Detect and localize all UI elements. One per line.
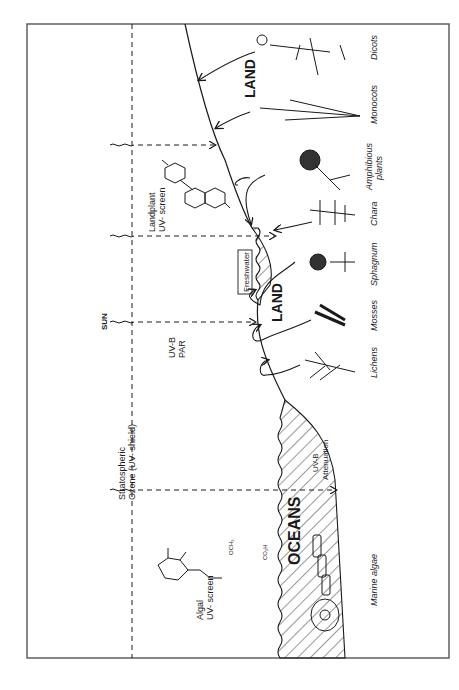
plant-mosses	[315, 305, 345, 325]
svg-text:Stratospheric: Stratospheric	[117, 446, 127, 500]
plant-chara	[310, 200, 355, 225]
plant-monocots	[260, 100, 360, 120]
label-uvb-par: UV-B PAR	[167, 337, 187, 358]
diagram-canvas: Stratospheric Ozone (UV- shield) SUN UV-…	[0, 0, 459, 690]
plant-amphibious	[300, 150, 350, 190]
label-sun: SUN	[100, 313, 109, 330]
plant-lichens	[305, 352, 355, 380]
label-sphagnum: Sphagnum	[369, 242, 379, 286]
label-land-lower: LAND	[269, 283, 285, 322]
svg-text:Ozone (UV- shield): Ozone (UV- shield)	[127, 424, 137, 500]
svg-text:Attenuation: Attenuation	[321, 440, 330, 480]
figure-frame	[27, 24, 449, 658]
label-dicots: Dicots	[369, 34, 379, 60]
label-monocots: Monocots	[369, 84, 379, 124]
plant-dicots	[257, 35, 345, 75]
label-chara: Chara	[369, 201, 379, 226]
label-lichens: Lichens	[369, 346, 379, 378]
svg-text:UV- screen: UV- screen	[157, 187, 167, 232]
svg-text:Algal: Algal	[195, 600, 205, 620]
algal-molecule	[158, 548, 222, 580]
label-amphibious-plants: Amphibious plants	[364, 142, 384, 191]
label-oceans: OCEANS	[286, 496, 303, 565]
land-coastline	[185, 24, 285, 400]
svg-text:Landplant: Landplant	[147, 192, 157, 232]
colonization-arrows	[199, 52, 312, 375]
sun-ray-upper	[110, 144, 215, 146]
svg-text:plants: plants	[374, 155, 384, 181]
svg-text:PAR: PAR	[177, 340, 187, 358]
label-algal-screen: Algal UV- screen	[195, 575, 215, 620]
svg-text:Amphibious: Amphibious	[364, 142, 374, 191]
label-mosses: Mosses	[369, 299, 379, 331]
svg-text:UV- screen: UV- screen	[205, 575, 215, 620]
svg-text:UV-B: UV-B	[167, 337, 177, 358]
label-ozone: Stratospheric Ozone (UV- shield)	[117, 424, 137, 500]
label-marine-algae: Marine algae	[369, 554, 379, 606]
landplant-molecule	[162, 160, 230, 208]
label-co2h: CO₂H	[262, 544, 268, 560]
label-och3: OCH₃	[228, 539, 234, 555]
plant-sphagnum	[310, 252, 355, 272]
sun-ray-landplant	[110, 235, 275, 237]
label-freshwater: Freshwater	[242, 252, 251, 292]
label-land-upper: LAND	[242, 59, 258, 98]
label-landplant-screen: Landplant UV- screen	[147, 187, 167, 232]
svg-text:UV-B: UV-B	[311, 453, 320, 472]
